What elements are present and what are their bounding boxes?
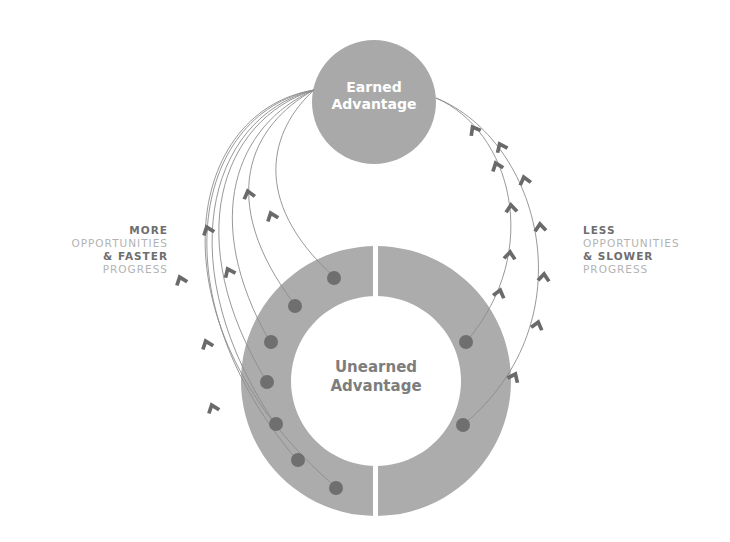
arrow-up-icon	[504, 201, 519, 213]
earned-advantage-label: Earned Advantage	[314, 79, 434, 113]
arrow-up-icon	[198, 336, 215, 351]
unearned-line2: Advantage	[316, 377, 436, 396]
dot	[288, 299, 302, 313]
dot	[459, 335, 473, 349]
arrow-up-icon	[502, 248, 517, 260]
earned-line1: Earned	[314, 79, 434, 96]
more-opportunities-label: MORE OPPORTUNITIES & FASTER PROGRESS	[71, 224, 168, 276]
unearned-advantage-label: Unearned Advantage	[316, 358, 436, 396]
left-label-line1: MORE	[71, 224, 168, 237]
left-label-line3: & FASTER	[71, 250, 168, 263]
dot	[456, 418, 470, 432]
right-label-line3: & SLOWER	[583, 250, 680, 263]
arrow-up-icon	[492, 138, 509, 154]
arrow-up-icon	[263, 208, 280, 223]
less-opportunities-label: LESS OPPORTUNITIES & SLOWER PROGRESS	[583, 224, 680, 276]
right-label-line1: LESS	[583, 224, 680, 237]
dot	[269, 417, 283, 431]
earned-line2: Advantage	[314, 96, 434, 113]
dot	[264, 335, 278, 349]
right-label-line4: PROGRESS	[583, 263, 680, 276]
dot	[260, 375, 274, 389]
dot	[291, 453, 305, 467]
dot	[327, 271, 341, 285]
dot	[329, 481, 343, 495]
right-label-line2: OPPORTUNITIES	[583, 237, 680, 250]
unearned-line1: Unearned	[316, 358, 436, 377]
arrow-up-icon	[204, 400, 221, 415]
arrow-up-icon	[533, 220, 548, 232]
arrow-up-icon	[172, 272, 189, 287]
left-label-line4: PROGRESS	[71, 263, 168, 276]
arrow-up-icon	[465, 121, 483, 138]
left-label-line2: OPPORTUNITIES	[71, 237, 168, 250]
